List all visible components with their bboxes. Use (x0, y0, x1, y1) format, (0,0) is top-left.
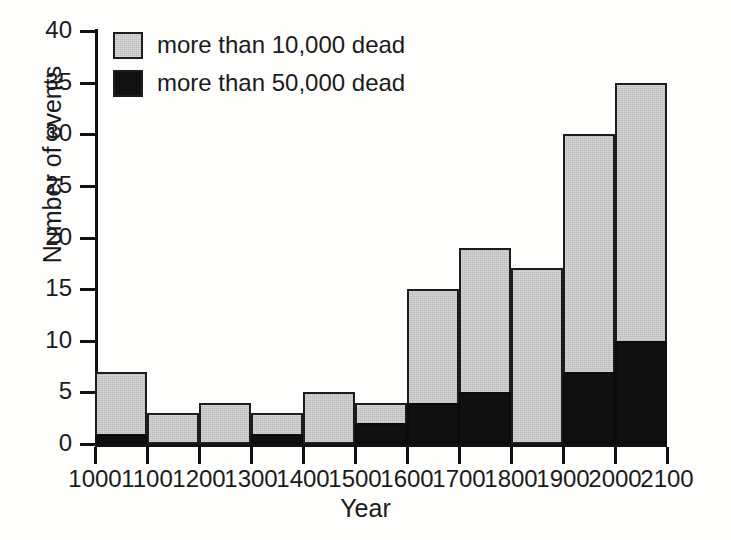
x-tick-mark (302, 447, 305, 464)
legend-item-more-than-10000: more than 10,000 dead (113, 26, 443, 64)
y-tick-mark (80, 82, 96, 85)
x-axis-title: Year (0, 494, 731, 523)
y-tick-mark (80, 30, 96, 33)
y-tick-mark (80, 288, 96, 291)
y-tick-label: 5 (28, 379, 72, 403)
y-tick-label: 10 (28, 328, 72, 352)
x-tick-mark (250, 447, 253, 464)
legend-label-more-than-10000: more than 10,000 dead (157, 32, 405, 58)
legend-swatch-dark-icon (113, 70, 143, 97)
y-tick-mark (80, 237, 96, 240)
legend-label-more-than-50000: more than 50,000 dead (157, 70, 405, 96)
x-tick-mark (458, 447, 461, 464)
x-tick-mark (666, 447, 669, 464)
y-tick-mark (80, 443, 96, 446)
x-tick-mark (94, 447, 97, 464)
y-tick-mark (80, 340, 96, 343)
x-tick-mark (510, 447, 513, 464)
bar-segment-more-than-50000 (563, 372, 615, 444)
bar-segment-more-than-10000 (199, 403, 251, 444)
x-tick-mark (562, 447, 565, 464)
legend-swatch-light-icon (113, 32, 143, 59)
bar-segment-more-than-50000 (407, 403, 459, 444)
y-tick-label: 30 (28, 121, 72, 145)
bar-segment-more-than-50000 (459, 392, 511, 444)
bar-segment-more-than-50000 (251, 434, 303, 444)
bar-chart: Number of events Year 0510152025303540 1… (0, 0, 731, 540)
bar-segment-more-than-50000 (95, 434, 147, 444)
y-tick-label: 35 (28, 70, 72, 94)
bar-segment-more-than-10000 (147, 413, 199, 444)
bar-segment-more-than-10000 (511, 268, 563, 444)
legend-item-more-than-50000: more than 50,000 dead (113, 64, 443, 102)
y-tick-label: 25 (28, 173, 72, 197)
y-tick-mark (80, 185, 96, 188)
y-tick-label: 40 (28, 18, 72, 42)
x-tick-mark (354, 447, 357, 464)
x-tick-mark (614, 447, 617, 464)
y-tick-label: 15 (28, 276, 72, 300)
x-tick-mark (406, 447, 409, 464)
bar-segment-more-than-10000 (303, 392, 355, 444)
x-axis-line (95, 444, 667, 447)
legend: more than 10,000 dead more than 50,000 d… (113, 26, 443, 102)
y-tick-label: 20 (28, 225, 72, 249)
x-tick-mark (146, 447, 149, 464)
bar-segment-more-than-50000 (615, 341, 667, 444)
bar-segment-more-than-50000 (355, 423, 407, 444)
y-axis-title: Number of events (38, 20, 67, 310)
x-tick-label: 2100 (627, 466, 707, 492)
y-tick-mark (80, 391, 96, 394)
x-tick-mark (198, 447, 201, 464)
y-tick-label: 0 (28, 431, 72, 455)
y-tick-mark (80, 133, 96, 136)
